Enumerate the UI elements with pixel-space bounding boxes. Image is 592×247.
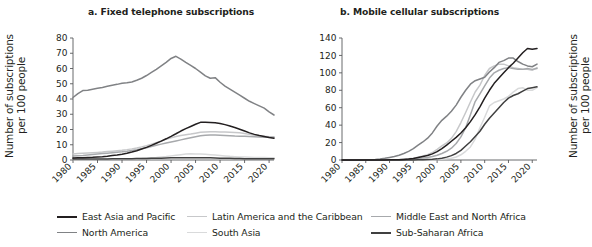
x-tick-label: 2000 (414, 161, 437, 184)
legend-item-south-asia[interactable]: South Asia (187, 225, 260, 240)
y-tick-label: 140 (319, 33, 336, 43)
y-tick-label: 10 (56, 140, 68, 150)
x-tick-label: 2020 (509, 161, 532, 184)
y-tick-label: 80 (325, 85, 337, 95)
y-tick-label: 60 (325, 103, 337, 113)
legend-item-sub-saharan-africa[interactable]: Sub-Saharan Africa (371, 225, 483, 240)
x-tick-label: 1995 (124, 161, 147, 184)
x-tick-label: 1990 (367, 161, 390, 184)
legend-label: Latin America and the Caribbean (212, 212, 363, 221)
panel-b-plot: 0204060801001201401980198519901995200020… (282, 0, 549, 205)
x-tick-label: 2005 (438, 161, 461, 184)
legend-swatch-line-icon (187, 232, 207, 233)
x-tick-label: 2015 (486, 161, 509, 184)
x-tick-label: 2000 (148, 161, 171, 184)
series-line-middle-east-and-north-africa (342, 68, 537, 160)
y-tick-label: 20 (56, 125, 68, 135)
x-tick-label: 1985 (75, 161, 98, 184)
y-tick-label: 120 (319, 51, 336, 61)
series-line-latin-america-and-the-caribbean (342, 64, 537, 160)
chart-panel-b: b. Mobile cellular subscriptions Number … (282, 0, 549, 205)
x-tick-label: 2005 (173, 161, 196, 184)
x-tick-label: 1980 (50, 161, 73, 184)
legend-label: North America (82, 228, 148, 237)
legend-row: North AmericaSouth AsiaSub-Saharan Afric… (0, 225, 549, 240)
y-tick-label: 70 (56, 48, 68, 58)
legend-label: South Asia (212, 228, 260, 237)
series-line-middle-east-and-north-africa (73, 135, 274, 156)
y-tick-label: 30 (56, 109, 68, 119)
legend-label: Sub-Saharan Africa (396, 228, 483, 237)
y-tick-label: 50 (56, 79, 68, 89)
legend-label: East Asia and Pacific (82, 212, 175, 221)
series-line-north-america (73, 56, 274, 115)
chart-legend: East Asia and PacificLatin America and t… (0, 206, 549, 247)
y-tick-label: 20 (325, 138, 337, 148)
x-tick-label: 2010 (462, 161, 485, 184)
legend-swatch-line-icon (57, 216, 77, 218)
legend-swatch-line-icon (371, 216, 391, 217)
legend-swatch-line-icon (57, 232, 77, 233)
y-tick-label: 60 (56, 64, 68, 74)
legend-label: Middle East and North Africa (396, 212, 526, 221)
x-tick-label: 1995 (390, 161, 413, 184)
legend-item-middle-east-and-north-africa[interactable]: Middle East and North Africa (371, 209, 526, 224)
x-tick-label: 2010 (197, 161, 220, 184)
x-tick-label: 2020 (246, 161, 269, 184)
legend-swatch-line-icon (187, 216, 207, 217)
x-tick-label: 2015 (222, 161, 245, 184)
panel-a-plot: 0102030405060708019801985199019952000200… (0, 0, 282, 205)
legend-row: East Asia and PacificLatin America and t… (0, 209, 549, 224)
legend-item-east-asia-and-pacific[interactable]: East Asia and Pacific (57, 209, 175, 224)
y-tick-label: 40 (56, 94, 68, 104)
x-tick-label: 1985 (343, 161, 366, 184)
panel-b-y-axis-label: Number of subscriptionsper 100 people (568, 26, 592, 166)
y-tick-label: 100 (319, 68, 336, 78)
series-line-north-america (342, 58, 537, 160)
x-tick-label: 1980 (319, 161, 342, 184)
legend-swatch-line-icon (371, 232, 391, 234)
series-line-sub-saharan-africa (73, 158, 274, 159)
y-tick-label: 40 (325, 120, 337, 130)
y-tick-label: 80 (56, 33, 68, 43)
x-tick-label: 1990 (99, 161, 122, 184)
chart-panel-a: a. Fixed telephone subscriptions Number … (0, 0, 282, 205)
legend-item-north-america[interactable]: North America (57, 225, 148, 240)
legend-item-latin-america-and-the-caribbean[interactable]: Latin America and the Caribbean (187, 209, 363, 224)
